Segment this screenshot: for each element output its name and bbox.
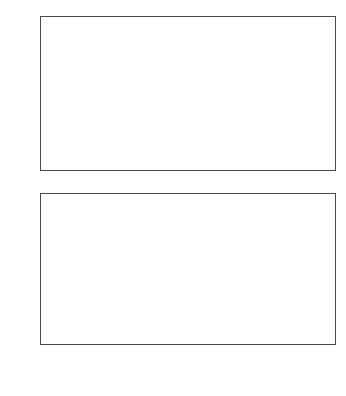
bottom-data-layer — [40, 193, 336, 345]
top-data-layer — [40, 16, 336, 171]
panel-fast-chases — [0, 185, 346, 396]
panel-sexual-displays — [0, 0, 346, 185]
figure-container — [0, 0, 346, 396]
